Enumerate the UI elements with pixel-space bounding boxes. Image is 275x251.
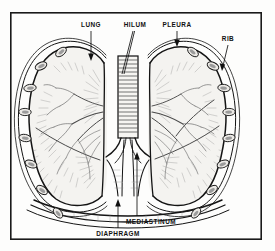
thorax-diagram-canvas: LUNG HILUM PLEURA RIB MEDIASTINUM DIAPHR… xyxy=(0,0,275,251)
label-hilum: HILUM xyxy=(124,21,146,28)
label-rib: RIB xyxy=(222,35,234,42)
rib xyxy=(223,108,236,116)
anatomical-figure: LUNG HILUM PLEURA RIB MEDIASTINUM DIAPHR… xyxy=(0,0,275,251)
label-pleura: PLEURA xyxy=(163,21,192,28)
trachea-tube xyxy=(118,56,138,138)
label-diaphragm: DIAPHRAGM xyxy=(96,230,139,237)
label-lung: LUNG xyxy=(81,21,101,28)
label-mediastinum: MEDIASTINUM xyxy=(126,218,176,225)
rib xyxy=(19,108,32,116)
